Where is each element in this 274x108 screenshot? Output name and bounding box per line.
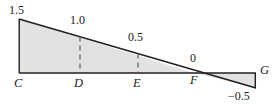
value-label-f: 0 (190, 52, 196, 64)
point-label-g: G (260, 64, 269, 77)
point-label-d: D (74, 77, 83, 90)
value-label-c: 1.5 (9, 4, 24, 16)
point-label-c: C (14, 77, 22, 90)
value-label-d: 1.0 (70, 14, 85, 26)
point-label-e: E (133, 77, 141, 90)
value-label-e: 0.5 (128, 31, 143, 43)
shear-diagram-figure: 1.5 1.0 0.5 0 −0.5 C D E F G (0, 0, 274, 108)
point-label-f: F (190, 74, 198, 87)
value-label-g: −0.5 (228, 90, 250, 102)
